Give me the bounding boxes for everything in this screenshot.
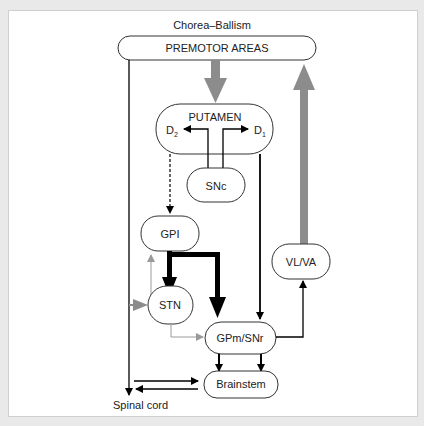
arrow-vlva-to-premotor bbox=[293, 64, 315, 246]
node-stn: STN bbox=[148, 286, 193, 324]
svg-text:SNc: SNc bbox=[206, 180, 227, 192]
svg-text:PREMOTOR AREAS: PREMOTOR AREAS bbox=[165, 42, 268, 54]
node-premotor-areas: PREMOTOR AREAS bbox=[118, 36, 316, 60]
svg-text:VL/VA: VL/VA bbox=[286, 256, 317, 268]
arrow-premotor-to-stn bbox=[129, 299, 148, 311]
svg-text:GPI: GPI bbox=[161, 228, 180, 240]
basal-ganglia-diagram: Chorea–Ballism PREMOTOR AREAS PUTAMEN D2… bbox=[0, 0, 424, 426]
node-snc: SNc bbox=[187, 168, 245, 202]
node-gpm-snr: GPm/SNr bbox=[205, 322, 276, 354]
diagram-title: Chorea–Ballism bbox=[173, 19, 251, 31]
node-putamen: PUTAMEN D2 D1 bbox=[156, 104, 273, 154]
svg-text:PUTAMEN: PUTAMEN bbox=[189, 111, 242, 123]
arrow-stn-to-gpm bbox=[171, 324, 203, 337]
arrow-gpm-to-vlva bbox=[276, 281, 303, 337]
svg-text:GPm/SNr: GPm/SNr bbox=[216, 332, 263, 344]
label-spinal-cord: Spinal cord bbox=[113, 399, 168, 411]
node-gpi: GPI bbox=[141, 216, 199, 251]
arrow-premotor-to-putamen bbox=[204, 60, 227, 103]
svg-text:STN: STN bbox=[159, 299, 181, 311]
arrows-gpm-to-brainstem bbox=[219, 354, 261, 371]
svg-text:Brainstem: Brainstem bbox=[216, 378, 266, 390]
node-vlva: VL/VA bbox=[272, 244, 330, 279]
node-brainstem: Brainstem bbox=[204, 371, 278, 398]
arrows-brainstem-spinal bbox=[134, 381, 198, 389]
